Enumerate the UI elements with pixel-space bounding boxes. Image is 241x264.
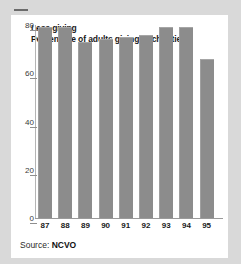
bar [139, 35, 153, 218]
bar-series [38, 25, 224, 218]
bar [119, 37, 133, 218]
x-axis-tick-label: 87 [35, 221, 55, 230]
y-axis-tick-label: 80 [0, 21, 34, 30]
x-axis-line [35, 218, 223, 219]
bar [99, 39, 113, 218]
source-note: Source: NCVO [20, 240, 76, 250]
x-axis-tick-label: 95 [197, 221, 217, 230]
y-axis-tick-mark [30, 127, 37, 128]
y-axis-tick-label: 40 [0, 117, 34, 126]
chart-figure: Less giving Percentage of adults giving … [0, 0, 241, 264]
bar [179, 27, 193, 218]
y-axis-tick-label: 20 [0, 165, 34, 174]
title-rule-dash [14, 9, 28, 11]
y-axis-line [35, 25, 36, 218]
y-axis-tick-label: 0 [0, 214, 34, 223]
y-axis-tick-mark [30, 30, 37, 31]
source-value: NCVO [52, 240, 77, 250]
source-label: Source: [20, 240, 49, 250]
bar [159, 27, 173, 218]
y-axis-tick-label: 60 [0, 69, 34, 78]
y-axis-tick-mark [30, 78, 37, 79]
bar [78, 42, 92, 218]
bar [38, 27, 52, 218]
bar [200, 59, 214, 218]
x-axis-tick-label: 94 [176, 221, 196, 230]
x-axis-tick-label: 89 [75, 221, 95, 230]
x-axis-tick-label: 92 [136, 221, 156, 230]
bar [58, 27, 72, 218]
x-axis-tick-label: 91 [116, 221, 136, 230]
y-axis-tick-mark [30, 175, 37, 176]
x-axis-tick-label: 88 [55, 221, 75, 230]
x-axis-tick-label: 90 [96, 221, 116, 230]
x-axis-tick-label: 93 [156, 221, 176, 230]
